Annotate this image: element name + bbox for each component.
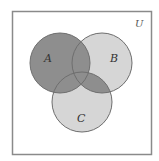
set-a-label: A <box>43 52 52 65</box>
set-c-label: C <box>77 112 86 125</box>
universe-label: U <box>135 18 144 29</box>
venn-diagram: A B C U <box>0 0 159 161</box>
set-b-label: B <box>109 52 118 65</box>
